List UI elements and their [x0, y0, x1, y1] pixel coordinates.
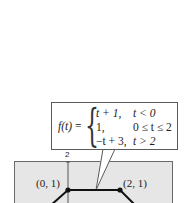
case-cond: 0 ≤ t ≤ 2 — [133, 121, 172, 133]
function-name: f(t) = — [58, 120, 81, 132]
equals-sign: = — [75, 120, 82, 132]
case-cond: t < 0 — [133, 107, 155, 119]
function-lhs: f(t) — [58, 120, 72, 132]
point-label-2-1: (2, 1) — [123, 177, 147, 189]
y-tick-label: 2 — [65, 150, 69, 159]
case-expr: 1, — [96, 121, 105, 133]
case-expr: t + 1, — [96, 107, 121, 119]
case-cond: t > 2 — [133, 135, 155, 147]
segment-decreasing — [120, 190, 136, 203]
case-row-1: t + 1, t < 0 — [96, 107, 176, 121]
case-row-3: −t + 3, t > 2 — [96, 135, 176, 149]
point-0-1 — [65, 187, 70, 192]
case-row-2: 1, 0 ≤ t ≤ 2 — [96, 121, 176, 135]
point-2-1 — [117, 187, 122, 192]
segment-increasing — [50, 190, 68, 203]
point-label-0-1: (0, 1) — [36, 177, 60, 189]
case-expr: −t + 3, — [96, 135, 127, 147]
formula-callout: f(t) = { t + 1, t < 0 1, 0 ≤ t ≤ 2 −t + … — [51, 102, 178, 150]
